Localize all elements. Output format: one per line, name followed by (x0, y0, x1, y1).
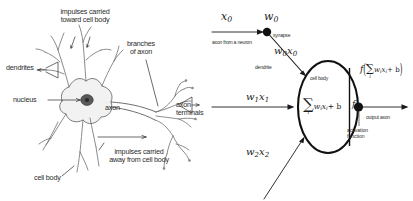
branches-line2: of axon (130, 47, 152, 56)
symbol-activation-f: f (352, 99, 355, 109)
symbol-w2x2: w2x2 (246, 146, 269, 159)
activation-line2: function (347, 133, 365, 139)
label-cell-body: cell body (34, 174, 61, 182)
biological-neuron-panel: impulses carried toward cell body dendri… (0, 0, 206, 201)
input-arrow-2 (299, 137, 305, 144)
label-output-axon: output axon (366, 115, 390, 120)
expression-weighted-sum: ∑iwixi+ b (303, 98, 341, 111)
symbol-w1x1: w1x1 (246, 91, 269, 104)
label-axon: axon (105, 104, 120, 112)
paren-close: ) (400, 62, 403, 79)
label-activation-function: activation function (347, 128, 368, 140)
symbol-w0x0: w0x0 (274, 45, 297, 58)
input-arrow-1 (288, 104, 295, 109)
label-cell-body-math: cell body (310, 76, 328, 81)
symbol-w0: w0 (264, 10, 278, 24)
label-synapse: synapse (273, 33, 290, 38)
symbol-x0: x0 (221, 10, 232, 24)
label-branches-of-axon: branches of axon (115, 40, 167, 56)
impulses-away-line2: away from cell body (109, 155, 169, 164)
sigma-icon-output: ∑i (366, 65, 374, 74)
label-nucleus: nucleus (13, 96, 36, 104)
axon-terminals-line2: terminals (176, 108, 203, 117)
label-impulses-away: impulses carried away from cell body (93, 148, 185, 164)
input-line-2 (264, 139, 303, 199)
output-axon-arrow (402, 104, 409, 109)
sigma-icon: ∑i (303, 98, 314, 110)
label-axon-from-neuron: axon from a neuron (212, 40, 252, 45)
expression-output: f(∑iwixi+ b) (360, 64, 402, 74)
label-dendrites: dendrites (6, 64, 34, 72)
impulses-toward-line2: toward cell body (61, 15, 110, 24)
label-axon-terminals: axon terminals (176, 101, 206, 117)
mathematical-model-panel: x0 w0 synapse axon from a neuron w0x0 de… (206, 0, 413, 201)
label-impulses-toward: impulses carried toward cell body (47, 8, 123, 24)
figure-canvas: impulses carried toward cell body dendri… (0, 0, 413, 201)
label-dendrite: dendrite (255, 65, 271, 70)
